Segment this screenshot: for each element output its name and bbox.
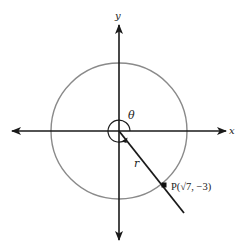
terminal-ray [119, 131, 184, 213]
radius-label: r [134, 157, 140, 170]
x-axis-label: x [229, 125, 235, 136]
theta-label: θ [128, 109, 135, 122]
point-p-label: P(√7, −3) [171, 181, 212, 193]
point-p-marker [162, 183, 167, 188]
coordinate-diagram: y x θ r P(√7, −3) [0, 0, 241, 247]
y-axis-label: y [114, 10, 121, 21]
